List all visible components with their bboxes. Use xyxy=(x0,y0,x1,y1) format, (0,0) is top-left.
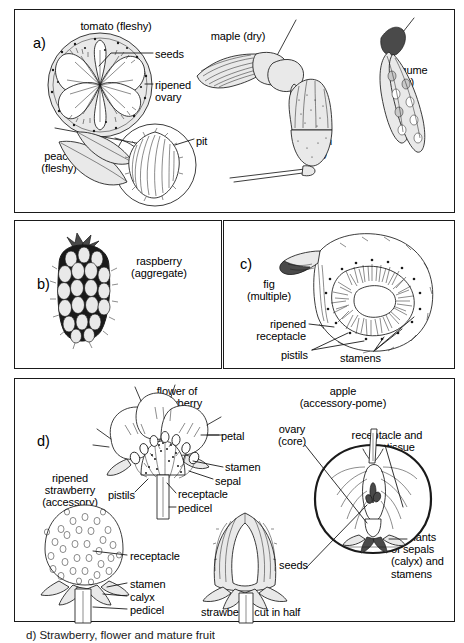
panel-a-artwork xyxy=(15,10,456,214)
legume-drawing xyxy=(380,18,425,152)
panel-d-artwork xyxy=(15,379,456,623)
fig-drawing xyxy=(280,234,433,353)
fruit-types-figure: a) tomato (fleshy) seeds ripened ovary p… xyxy=(0,0,464,643)
panel-b-artwork xyxy=(15,221,223,370)
panel-b: b) raspberry (aggregate) xyxy=(14,220,222,369)
panel-c: c) fig (multiple) ripened receptacle pis… xyxy=(223,220,455,369)
tomato-drawing xyxy=(48,33,153,137)
panel-d: d) flower of strawberry petal stamen sep… xyxy=(14,378,455,622)
raspberry-drawing xyxy=(50,233,118,349)
strawberry-half-drawing xyxy=(203,513,287,623)
panel-a: a) tomato (fleshy) seeds ripened ovary p… xyxy=(14,9,455,213)
peach-drawing xyxy=(55,124,196,206)
strawberry-flower-drawing xyxy=(93,385,223,519)
panel-c-artwork xyxy=(224,221,456,370)
apple-drawing xyxy=(305,429,431,569)
ripened-strawberry-drawing xyxy=(41,505,129,623)
figure-caption: d) Strawberry, flower and mature fruit xyxy=(26,629,215,643)
acorn-drawing xyxy=(230,79,332,182)
